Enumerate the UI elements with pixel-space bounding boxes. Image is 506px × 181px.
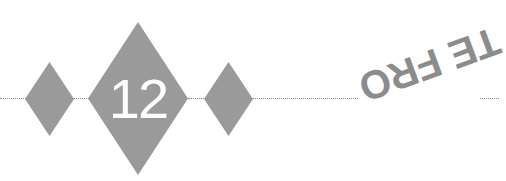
chapter-number: 12 xyxy=(88,22,188,175)
bleed-through-label: TE FRO xyxy=(359,18,506,108)
small-diamond-left-icon xyxy=(25,62,74,136)
bleed-through-text: TE FRO xyxy=(360,8,500,98)
dotted-rule-left xyxy=(0,98,26,99)
dotted-rule-far-right xyxy=(480,98,499,99)
dotted-rule-mid-left xyxy=(73,98,89,99)
dotted-rule-mid-right xyxy=(188,98,204,99)
small-diamond-right-icon xyxy=(204,62,253,136)
dotted-rule-right xyxy=(253,98,358,99)
